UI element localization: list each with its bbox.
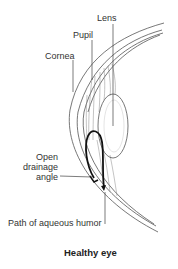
aqueous-path-arrowhead	[101, 185, 106, 191]
drainage-leader	[60, 176, 92, 177]
aqueous-humor-label: Path of aqueous humor	[8, 219, 102, 228]
eye-diagram: Lens Pupil Cornea Open drainage angle Pa…	[0, 0, 178, 269]
drainage-label-line3: angle	[23, 172, 58, 182]
aqueous-path-loop	[86, 131, 104, 188]
lens-label: Lens	[97, 14, 117, 23]
drainage-label-line2: drainage	[23, 162, 58, 172]
drainage-angle-label: Open drainage angle	[23, 152, 58, 182]
figure-caption: Healthy eye	[64, 247, 117, 258]
eye-cross-section-illustration	[0, 0, 178, 269]
pupil-label: Pupil	[73, 31, 93, 40]
cornea-curves	[69, 23, 164, 232]
cornea-label: Cornea	[45, 52, 75, 61]
drainage-label-line1: Open	[23, 152, 58, 162]
